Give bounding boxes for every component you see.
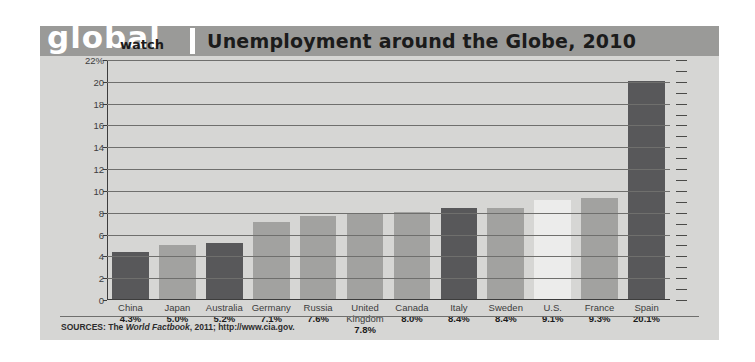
right-axis-tick (676, 300, 687, 301)
gridline (107, 147, 670, 148)
x-axis-label: Russia7.6% (295, 302, 342, 324)
right-axis-tick (676, 104, 687, 105)
right-axis-tick (676, 71, 687, 72)
country-name: Russia (295, 302, 342, 313)
right-axis-tick (676, 180, 687, 181)
gridline (107, 213, 670, 214)
y-axis-tick (103, 104, 107, 105)
y-axis-labels: 22%20181614121086420 (60, 60, 104, 300)
y-axis-tick (103, 256, 107, 257)
chart-card: global watch Unemployment around the Glo… (40, 26, 719, 340)
x-axis-label: Australia5.2% (201, 302, 248, 324)
right-axis-tick (676, 289, 687, 290)
sources-title: World Factbook (126, 322, 190, 332)
y-tick-label: 22% (85, 55, 104, 66)
country-value: 9.1% (529, 313, 576, 324)
bar-italy (441, 208, 478, 299)
right-axis-tick (676, 136, 687, 137)
right-axis-tick (676, 213, 687, 214)
country-name: Canada (389, 302, 436, 313)
x-axis-label: U.S.9.1% (529, 302, 576, 324)
gridline (107, 125, 670, 126)
logo-watch-text: watch (120, 38, 164, 51)
country-value: 8.4% (482, 313, 529, 324)
country-value: 8.0% (389, 313, 436, 324)
gridline (107, 191, 670, 192)
bar-russia (300, 216, 337, 299)
y-axis-tick (103, 82, 107, 83)
chart-header: global watch Unemployment around the Glo… (40, 26, 719, 56)
country-name: U.S. (529, 302, 576, 313)
y-axis-tick (103, 125, 107, 126)
right-axis-tick (676, 191, 687, 192)
right-axis-tick (676, 93, 687, 94)
x-axis-label: Spain20.1% (623, 302, 670, 324)
bar-china (112, 252, 149, 299)
country-name: Australia (201, 302, 248, 313)
y-axis-tick (103, 191, 107, 192)
x-axis-label: Canada8.0% (389, 302, 436, 324)
x-axis-label: China4.3% (107, 302, 154, 324)
gridline (107, 60, 670, 61)
x-axis-label: United Kingdom7.8% (342, 302, 389, 335)
right-axis-tick (676, 60, 687, 61)
sources-note: SOURCES: The World Factbook, 2011; http:… (61, 322, 295, 332)
y-axis-tick (103, 213, 107, 214)
bar-sweden (487, 208, 524, 299)
country-name: Italy (435, 302, 482, 313)
x-axis-label: Germany7.1% (248, 302, 295, 324)
bar-series (107, 60, 670, 299)
bar-u-s (534, 200, 571, 299)
right-tick-axis (676, 60, 690, 300)
gridline (107, 256, 670, 257)
right-axis-tick (676, 115, 687, 116)
global-watch-logo: global watch (42, 26, 187, 56)
country-name: Sweden (482, 302, 529, 313)
right-axis-tick (676, 158, 687, 159)
right-axis-tick (676, 256, 687, 257)
chart-canvas (107, 60, 670, 300)
country-name: Spain (623, 302, 670, 313)
bar-spain (628, 81, 665, 299)
gridline (107, 169, 670, 170)
right-axis-tick (676, 245, 687, 246)
country-name: China (107, 302, 154, 313)
gridline (107, 104, 670, 105)
country-value: 8.4% (435, 313, 482, 324)
bar-japan (159, 245, 196, 299)
country-name: Germany (248, 302, 295, 313)
country-value: 7.8% (342, 324, 389, 335)
screenshot-root: global watch Unemployment around the Glo… (0, 0, 755, 362)
gridline (107, 235, 670, 236)
x-axis-label: Japan5.0% (154, 302, 201, 324)
country-value: 9.3% (576, 313, 623, 324)
country-name: United Kingdom (342, 302, 389, 324)
right-axis-tick (676, 125, 687, 126)
right-axis-tick (676, 278, 687, 279)
y-axis-tick (103, 300, 107, 301)
right-axis-tick (676, 224, 687, 225)
x-axis-line (107, 299, 670, 300)
plot-area: 22%20181614121086420 China4.3%Japan5.0%A… (40, 56, 719, 340)
y-axis-tick (103, 147, 107, 148)
right-axis-tick (676, 235, 687, 236)
bar-germany (253, 222, 290, 299)
x-axis-label: Italy8.4% (435, 302, 482, 324)
footer-divider (60, 316, 699, 317)
right-axis-tick (676, 169, 687, 170)
country-name: Japan (154, 302, 201, 313)
x-axis-label: Sweden8.4% (482, 302, 529, 324)
y-axis-tick (103, 60, 107, 61)
page-title: Unemployment around the Globe, 2010 (207, 29, 636, 53)
sources-prefix: SOURCES: The (61, 322, 126, 332)
x-axis-label: France9.3% (576, 302, 623, 324)
right-axis-tick (676, 82, 687, 83)
country-name: France (576, 302, 623, 313)
y-axis-tick (103, 169, 107, 170)
bar-australia (206, 243, 243, 299)
gridline (107, 82, 670, 83)
sources-suffix: , 2011; http://www.cia.gov. (190, 322, 295, 332)
gridline (107, 278, 670, 279)
logo-divider (190, 28, 195, 54)
right-axis-tick (676, 202, 687, 203)
